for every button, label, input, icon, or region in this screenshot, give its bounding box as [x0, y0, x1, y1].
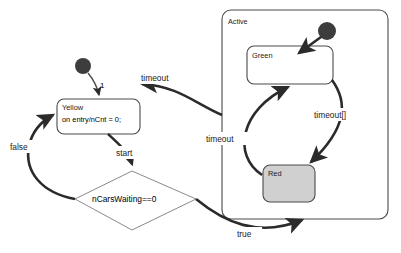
state-green[interactable]: Green — [247, 46, 333, 84]
state-yellow-label: Yellow — [62, 103, 84, 112]
edge-timeout-shared-label: timeout — [206, 134, 234, 144]
edge-yellow-to-decision-label: start — [116, 148, 133, 158]
state-yellow[interactable]: Yellow on entry/nCnt = 0; — [57, 99, 140, 134]
state-active-label: Active — [228, 17, 248, 26]
edge-initial-to-yellow-path — [88, 73, 99, 95]
state-green-label: Green — [252, 51, 273, 60]
edge-active-to-yellow-path — [142, 84, 222, 115]
edge-decision-true-label: true — [237, 229, 252, 239]
statechart-diagram: Active Green Red timeout[] — [0, 0, 401, 253]
statechart-canvas: Active Green Red timeout[] — [0, 0, 401, 253]
edge-timeout-label-group: timeout — [205, 132, 247, 145]
top-initial-circle[interactable] — [75, 58, 91, 74]
top-initial-state[interactable]: 1 — [75, 58, 105, 95]
edge-initial-to-yellow-label: 1 — [100, 81, 105, 90]
state-yellow-entry-action: on entry/nCnt = 0; — [62, 115, 121, 124]
edge-yellow-to-decision: start — [108, 134, 143, 164]
state-red[interactable]: Red — [263, 165, 315, 202]
edge-active-to-yellow: timeout — [140, 71, 222, 115]
edge-green-to-red-label: timeout[] — [314, 110, 346, 120]
decision-node[interactable]: nCarsWaiting==0 — [75, 171, 196, 230]
decision-guard-label: nCarsWaiting==0 — [92, 194, 157, 204]
edge-active-to-yellow-label: timeout — [141, 73, 169, 83]
edge-decision-false-label: false — [10, 142, 28, 152]
state-red-label: Red — [268, 169, 282, 178]
